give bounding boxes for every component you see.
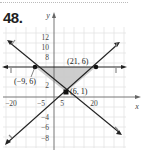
y-tick-label: −4 <box>41 113 49 122</box>
y-tick-label: 8 <box>45 53 49 62</box>
vertex-point <box>94 65 99 70</box>
vertex-label: (6, 1) <box>70 87 88 96</box>
y-axis-label: y <box>45 11 50 20</box>
x-axis-arrow-icon <box>135 95 141 99</box>
x-tick-label: −20 <box>5 99 17 108</box>
y-tick-label: 12 <box>42 33 50 42</box>
graph: 12 10 8 2 −4 −6 −8 −20 −5 5 20 x y (−9, … <box>0 0 145 153</box>
x-tick-label: −5 <box>37 99 45 108</box>
x-axis-label: x <box>134 102 139 111</box>
label-leader <box>31 67 35 77</box>
y-tick-label: −6 <box>41 123 49 132</box>
y-axis-arrow-icon <box>52 12 56 18</box>
y-tick-label: 10 <box>42 43 50 52</box>
y-tick-label: 2 <box>45 81 49 90</box>
x-tick-label: 20 <box>90 99 98 108</box>
y-tick-label: −8 <box>41 134 49 143</box>
vertex-label: (−9, 6) <box>14 77 36 86</box>
arrowhead-icon <box>2 65 8 69</box>
vertex-point <box>64 90 69 95</box>
vertex-label: (21, 6) <box>67 57 89 66</box>
x-tick-label: 5 <box>60 99 64 108</box>
